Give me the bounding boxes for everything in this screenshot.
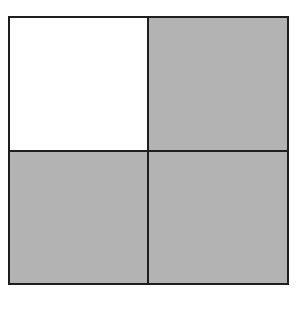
unshaded-cell [10,18,149,152]
shaded-cell [149,18,287,152]
shaded-cell [10,152,149,283]
shaded-cell [149,152,287,283]
figure-canvas [0,0,306,327]
square-grid [8,16,289,285]
